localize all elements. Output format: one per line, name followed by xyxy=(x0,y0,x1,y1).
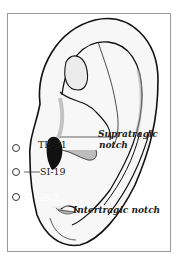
label-gb2: GB-2 xyxy=(35,193,59,203)
point-gb2-marker xyxy=(12,193,20,201)
point-te21-marker xyxy=(12,144,20,152)
label-te21: TE-21 xyxy=(38,140,67,150)
label-si19: SI-19 xyxy=(40,167,66,177)
label-intertragic: Intertragic notch xyxy=(73,205,160,215)
triangular-fossa xyxy=(65,56,88,90)
label-supratragic-line1: Supratragic xyxy=(98,129,158,139)
point-si19-marker xyxy=(12,168,20,176)
label-supratragic-line2: notch xyxy=(99,140,128,150)
